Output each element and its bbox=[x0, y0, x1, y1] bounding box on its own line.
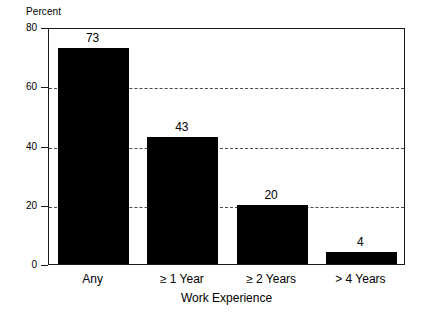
x-axis-title-text: Work Experience bbox=[181, 291, 272, 305]
bar-value-label: 43 bbox=[152, 121, 212, 134]
bar-value-label: 73 bbox=[63, 32, 123, 45]
plot-area bbox=[48, 28, 405, 265]
x-axis-title: Work Experience bbox=[0, 291, 446, 305]
bar bbox=[237, 205, 308, 264]
y-tick-label: 0 bbox=[15, 260, 37, 270]
bar bbox=[326, 252, 397, 264]
bar-chart: Percent 020406080 7343204 Any≥ 1 Year≥ 2… bbox=[0, 0, 446, 314]
y-tick-mark bbox=[41, 147, 48, 148]
y-tick-mark bbox=[41, 206, 48, 207]
y-tick-label: 40 bbox=[15, 142, 37, 152]
y-axis-title: Percent bbox=[26, 6, 61, 17]
y-tick-mark bbox=[41, 28, 48, 29]
x-tick-label: > 4 Years bbox=[305, 272, 415, 286]
bar-value-label: 4 bbox=[330, 236, 390, 249]
y-tick-label: 60 bbox=[15, 82, 37, 92]
y-tick-label: 20 bbox=[15, 201, 37, 211]
y-tick-mark bbox=[41, 265, 48, 266]
y-tick-label: 80 bbox=[15, 23, 37, 33]
bar-value-label: 20 bbox=[241, 189, 301, 202]
y-tick-mark bbox=[41, 87, 48, 88]
bar bbox=[58, 48, 129, 264]
bar bbox=[147, 137, 218, 264]
